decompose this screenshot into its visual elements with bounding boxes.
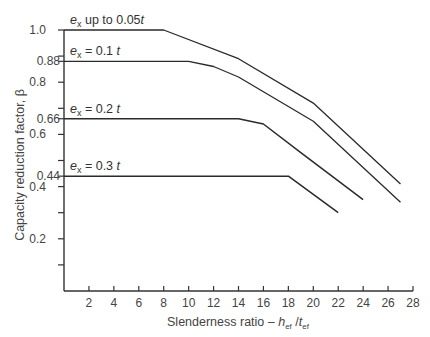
y-tick-label: 0.4 [29,180,46,194]
series-label-3: ex = 0.2 t [70,102,121,118]
capacity-reduction-chart: 246810121416182022242628 1.00.880.80.660… [0,0,430,337]
y-tick-label: 0.2 [29,232,46,246]
x-tick-label: 4 [111,296,118,310]
series-label-4: ex = 0.3 t [70,159,121,175]
y-tick-label: 0.6 [29,127,46,141]
x-tick-label: 18 [282,296,296,310]
x-tick-label: 24 [356,296,370,310]
series-line-2 [64,61,401,202]
y-tick-label: 0.88 [37,54,61,68]
x-axis-ticks: 246810121416182022242628 [86,286,420,310]
x-tick-label: 14 [232,296,246,310]
x-tick-label: 2 [86,296,93,310]
x-tick-label: 20 [307,296,321,310]
x-tick-label: 8 [160,296,167,310]
x-tick-label: 26 [381,296,395,310]
x-tick-label: 22 [332,296,346,310]
series-line-4 [64,176,338,213]
x-tick-label: 28 [406,296,420,310]
x-axis-title: Slenderness ratio – hef /tef [167,315,310,331]
x-tick-label: 10 [182,296,196,310]
y-axis-title: Capacity reduction factor, β [13,89,27,241]
x-tick-label: 12 [207,296,221,310]
y-tick-label: 1.0 [29,23,46,37]
y-tick-label: 0.8 [29,75,46,89]
y-tick-label: 0.66 [37,112,61,126]
series-labels: ex up to 0.05tex = 0.1 tex = 0.2 tex = 0… [70,13,145,175]
x-tick-label: 6 [135,296,142,310]
series-label-2: ex = 0.1 t [70,44,121,60]
series-label-1: ex up to 0.05t [70,13,145,29]
x-tick-label: 16 [257,296,271,310]
y-axis-ticks: 1.00.880.80.660.60.440.40.2 [29,23,64,265]
